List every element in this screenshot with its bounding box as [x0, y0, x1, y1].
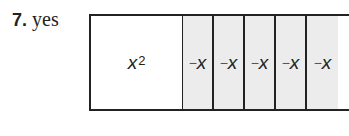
tile-base: x [128, 52, 138, 74]
tile-sign: − [282, 55, 290, 71]
algebra-tile-model: x2 −x −x −x −x −x [89, 14, 349, 111]
negative-x-tile: −x [307, 16, 338, 109]
tile-sign: − [189, 55, 197, 71]
tile-sign: − [220, 55, 228, 71]
tile-var: x [197, 52, 207, 74]
negative-x-tile: −x [214, 16, 245, 109]
negative-x-tile: −x [183, 16, 214, 109]
tile-exponent: 2 [138, 53, 145, 68]
tile-sign: − [314, 55, 322, 71]
tile-sign: − [251, 55, 259, 71]
problem-label: 7. yes [12, 8, 59, 31]
negative-x-tile: −x [276, 16, 307, 109]
tile-var: x [228, 52, 238, 74]
tile-var: x [290, 52, 300, 74]
tile-var: x [322, 52, 332, 74]
problem-answer: yes [32, 8, 59, 30]
tile-var: x [259, 52, 269, 74]
problem-number: 7. [12, 10, 27, 30]
negative-x-tile: −x [245, 16, 276, 109]
x-squared-tile: x2 [91, 16, 184, 109]
